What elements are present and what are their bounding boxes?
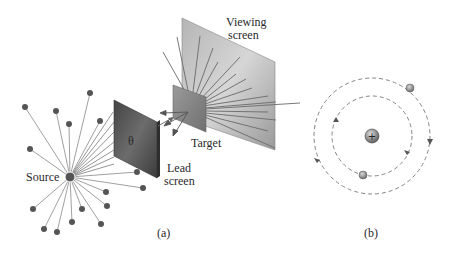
viewing-screen-label-line2: screen: [228, 28, 259, 42]
inner-electron: [359, 171, 367, 179]
panel-b-caption: (b): [364, 226, 378, 240]
source-label: Source: [26, 170, 59, 184]
theta-label: θ: [128, 134, 134, 148]
nucleus-plus-icon: +: [368, 131, 376, 142]
lead-screen-label-line1: Lead: [167, 161, 191, 175]
lead-screen: [114, 100, 157, 178]
source-to-lead-rays: [70, 112, 114, 177]
viewing-screen-label-line1: Viewing: [226, 15, 267, 29]
panel-a-caption: (a): [157, 226, 170, 240]
source-icon: [65, 172, 75, 182]
target-label: Target: [191, 136, 222, 150]
outer-electron: [406, 84, 414, 92]
panel-b: + (b): [314, 78, 433, 240]
lead-screen-label-line2: screen: [164, 174, 195, 188]
rutherford-diagram: θ: [0, 0, 461, 257]
panel-a: θ: [22, 15, 300, 240]
